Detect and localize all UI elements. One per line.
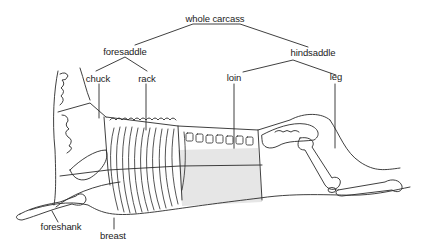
loin-region [178, 148, 262, 206]
label-breast: breast [100, 231, 126, 241]
label-hindsaddle: hindsaddle [291, 48, 336, 58]
label-leg: leg [330, 72, 342, 82]
label-foresaddle: foresaddle [103, 47, 146, 57]
label-foreshank: foreshank [41, 222, 82, 232]
carcass-illustration [0, 0, 429, 249]
label-rack: rack [138, 74, 156, 84]
label-whole-carcass: whole carcass [186, 14, 245, 24]
carcass-diagram: whole carcass foresaddle hindsaddle chuc… [0, 0, 429, 249]
label-loin: loin [227, 73, 241, 83]
label-chuck: chuck [86, 74, 110, 84]
